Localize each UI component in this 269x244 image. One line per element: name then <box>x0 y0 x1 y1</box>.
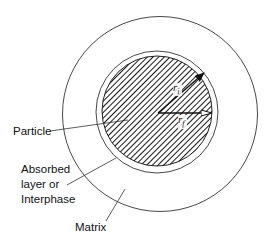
particle-region <box>102 56 212 166</box>
diagram-graphic <box>0 0 269 244</box>
interphase-label-line2: layer or <box>21 177 59 192</box>
composite-particle-diagram: ri rf Particle Absorbed layer or Interph… <box>0 0 269 244</box>
matrix-leader-line <box>106 189 125 221</box>
interphase-label-line1: Absorbed <box>21 162 70 177</box>
radius-subscript: i <box>177 87 179 96</box>
radius-subscript: f <box>182 119 184 128</box>
interphase-label-line3: Interphase <box>21 192 75 207</box>
interphase-radius-label: ri <box>173 81 180 96</box>
particle-label: Particle <box>13 124 51 139</box>
interphase-leader-line <box>67 158 116 185</box>
particle-radius-label: rf <box>178 113 185 128</box>
matrix-label: Matrix <box>75 220 106 235</box>
